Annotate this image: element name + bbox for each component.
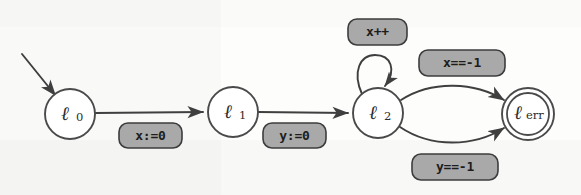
edge-l2-to-lerr-upper <box>401 86 504 100</box>
edge-label-y-assign-0-text: y:=0 <box>279 128 310 143</box>
edge-label-x-increment-text: x++ <box>366 24 389 39</box>
automaton-canvas: ℓ 0 ℓ 1 ℓ 2 ℓ err x:=0 y:=0 <box>0 0 581 195</box>
node-l0-label: ℓ <box>61 102 69 124</box>
edge-label-x-increment[interactable]: x++ <box>348 19 407 45</box>
initial-arrow <box>22 54 56 96</box>
edge-label-y-assign-0[interactable]: y:=0 <box>263 123 326 148</box>
node-l2-subscript: 2 <box>384 109 391 123</box>
edge-l2-to-lerr-lower <box>400 127 504 143</box>
node-lerr-subscript: err <box>526 108 544 122</box>
node-l0[interactable]: ℓ 0 <box>45 89 95 139</box>
edge-label-y-equals-minus1-text: y==-1 <box>436 159 475 174</box>
edge-label-x-assign-0-text: x:=0 <box>135 128 166 143</box>
node-l2-label: ℓ <box>369 101 377 123</box>
node-l1-label: ℓ <box>224 100 232 122</box>
node-lerr[interactable]: ℓ err <box>502 88 554 140</box>
edge-l0-to-l1 <box>96 112 204 113</box>
node-lerr-label: ℓ <box>514 101 522 123</box>
edge-l1-to-l2 <box>258 112 348 113</box>
node-l1-subscript: 1 <box>239 108 246 122</box>
node-l0-subscript: 0 <box>76 110 83 124</box>
edge-label-x-equals-minus1[interactable]: x==-1 <box>419 50 505 76</box>
node-l2[interactable]: ℓ 2 <box>353 88 403 138</box>
node-l1[interactable]: ℓ 1 <box>208 87 258 137</box>
automaton-diagram: ℓ 0 ℓ 1 ℓ 2 ℓ err x:=0 y:=0 <box>0 0 581 195</box>
edge-label-x-assign-0[interactable]: x:=0 <box>119 123 182 148</box>
edge-label-x-equals-minus1-text: x==-1 <box>443 55 482 70</box>
edge-label-y-equals-minus1[interactable]: y==-1 <box>412 154 498 180</box>
